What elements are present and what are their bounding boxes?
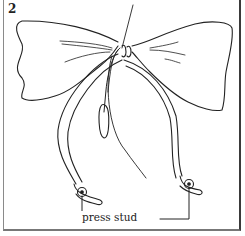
left-bow-wing bbox=[17, 21, 118, 100]
right-stud-tab bbox=[180, 176, 202, 195]
thread bbox=[122, 5, 133, 48]
right-bow-wing bbox=[132, 22, 232, 111]
right-leader-line bbox=[160, 188, 189, 219]
bow-illustration bbox=[0, 0, 245, 236]
press-stud-label: press stud bbox=[80, 211, 139, 223]
needle bbox=[104, 48, 120, 112]
